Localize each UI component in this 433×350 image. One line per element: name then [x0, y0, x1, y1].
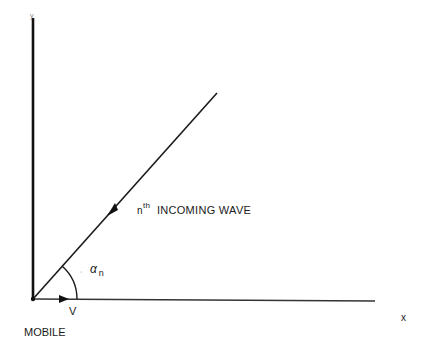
angle-symbol: α [90, 262, 97, 276]
incoming-wave-line [33, 93, 217, 299]
y-axis-label: y [30, 12, 34, 19]
mobile-point [31, 297, 35, 301]
velocity-arrow-icon [59, 295, 69, 303]
angle-arc [62, 266, 77, 299]
x-axis-label: x [401, 312, 406, 323]
wave-superscript: th [143, 201, 150, 210]
angle-label: αn [90, 262, 104, 276]
incoming-wave-label: nth INCOMING WAVE [137, 204, 251, 216]
x-axis [33, 299, 375, 301]
mobile-label: MOBILE [24, 326, 66, 338]
angle-subscript: n [99, 268, 104, 278]
wave-text: INCOMING WAVE [157, 204, 251, 216]
velocity-label: V [69, 305, 76, 317]
wave-index: n [137, 205, 143, 216]
diagram-canvas [0, 0, 433, 350]
speck [80, 271, 81, 272]
